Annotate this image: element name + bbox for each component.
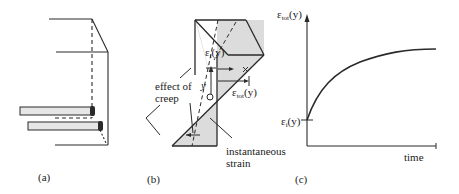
panel-c-plot (301, 14, 436, 149)
rebar-lower (28, 121, 103, 131)
y-axis-arrow (305, 14, 310, 22)
y-axis-top-label: εtot(y) (277, 8, 302, 24)
panel-b-label: (b) (147, 173, 160, 185)
effect-of-creep-label: effect of creep (155, 80, 192, 104)
rebar-upper (20, 106, 95, 116)
strain-curve (307, 49, 436, 120)
y-axis-start-label: εi(y) (281, 115, 300, 131)
instantaneous-strain-label: instantaneous strain (226, 145, 286, 169)
panel-a-label: (a) (38, 171, 50, 183)
epsilon-i-label: εi(y) (205, 46, 224, 62)
panel-c-label: (c) (295, 173, 307, 185)
y-label: y (201, 79, 206, 91)
x-axis-label: time (404, 151, 424, 163)
epsilon-tot-label: εtot(y) (232, 86, 257, 102)
